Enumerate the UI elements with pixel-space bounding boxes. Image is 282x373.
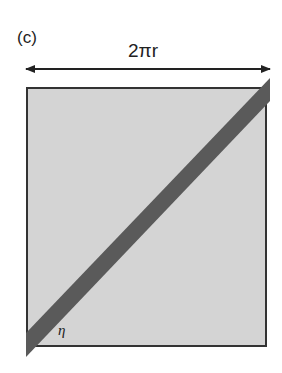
panel-label: (c) [17, 28, 37, 48]
angle-eta-label: η [58, 322, 65, 339]
circumference-label: 2πr [128, 40, 158, 62]
